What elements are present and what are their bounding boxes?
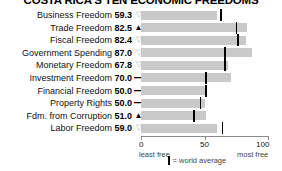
axis-label-0: 0 xyxy=(139,140,143,149)
row-plot-area xyxy=(141,22,269,35)
world-average-marker xyxy=(193,110,195,122)
row-plot-area xyxy=(141,72,269,85)
score-bar xyxy=(141,73,231,82)
row-score-value: 50.0 xyxy=(112,85,132,98)
row-label: Property Rights xyxy=(0,97,112,110)
legend: = world average xyxy=(168,156,226,165)
score-bar xyxy=(141,86,205,95)
score-bar xyxy=(141,99,205,108)
row-label: Fiscal Freedom xyxy=(0,34,112,47)
world-average-marker xyxy=(224,59,226,71)
world-average-marker xyxy=(224,47,226,59)
economic-freedoms-chart: COSTA RICA'S TEN ECONOMIC FREEDOMS Busin… xyxy=(0,0,282,171)
row-score-value: 70.0 xyxy=(112,72,132,85)
chart-row: Property Rights50.0— xyxy=(0,97,282,110)
score-bar xyxy=(141,11,217,20)
row-label: Monetary Freedom xyxy=(0,59,112,72)
world-average-tick-icon xyxy=(168,156,170,165)
row-plot-area xyxy=(141,34,269,47)
legend-label: = world average xyxy=(173,156,227,165)
chart-row: Fiscal Freedom82.4▽ xyxy=(0,34,282,47)
row-plot-area xyxy=(141,9,269,22)
chart-row: Business Freedom59.3▽ xyxy=(0,9,282,22)
row-score-value: 87.0 xyxy=(112,47,132,60)
chart-row: Government Spending87.0▽ xyxy=(0,47,282,60)
chart-row: Monetary Freedom67.8▽ xyxy=(0,59,282,72)
score-bar xyxy=(141,111,206,120)
row-score-value: 67.8 xyxy=(112,59,132,72)
row-score-value: 50.0 xyxy=(112,97,132,110)
world-average-marker xyxy=(236,22,238,34)
row-score-value: 82.5 xyxy=(112,22,132,35)
row-label: Government Spending xyxy=(0,47,112,60)
row-plot-area xyxy=(141,47,269,60)
chart-title: COSTA RICA'S TEN ECONOMIC FREEDOMS xyxy=(0,0,282,5)
world-average-marker xyxy=(205,72,207,84)
axis-label-50: 50 xyxy=(200,140,209,149)
x-axis: 0 50 100 least free most free xyxy=(141,136,269,137)
score-bar xyxy=(141,124,217,133)
row-score-value: 82.4 xyxy=(112,34,132,47)
score-bar xyxy=(141,23,247,32)
chart-row: Labor Freedom59.0▽ xyxy=(0,122,282,135)
row-label: Business Freedom xyxy=(0,9,112,22)
row-label: Fdm. from Corruption xyxy=(0,110,112,123)
world-average-marker xyxy=(237,34,239,46)
world-average-marker xyxy=(205,85,207,97)
chart-row: Financial Freedom50.0— xyxy=(0,85,282,98)
row-plot-area xyxy=(141,85,269,98)
score-bar xyxy=(141,61,228,70)
row-label: Labor Freedom xyxy=(0,122,112,135)
chart-row: Fdm. from Corruption51.0▲ xyxy=(0,110,282,123)
world-average-marker xyxy=(200,97,202,109)
row-score-value: 59.3 xyxy=(112,9,132,22)
chart-rows: Business Freedom59.3▽Trade Freedom82.5▲F… xyxy=(0,9,282,135)
axis-label-100: 100 xyxy=(256,140,269,149)
chart-row: Trade Freedom82.5▲ xyxy=(0,22,282,35)
score-bar xyxy=(141,48,252,57)
row-score-value: 51.0 xyxy=(112,110,132,123)
score-bar xyxy=(141,36,246,45)
axis-caption-most-free: most free xyxy=(237,150,268,159)
axis-caption-least-free: least free xyxy=(139,150,170,159)
row-score-value: 59.0 xyxy=(112,122,132,135)
row-label: Trade Freedom xyxy=(0,22,112,35)
row-label: Investment Freedom xyxy=(0,72,112,85)
row-plot-area xyxy=(141,97,269,110)
row-plot-area xyxy=(141,122,269,135)
chart-row: Investment Freedom70.0— xyxy=(0,72,282,85)
row-label: Financial Freedom xyxy=(0,85,112,98)
row-plot-area xyxy=(141,59,269,72)
world-average-marker xyxy=(222,122,224,134)
world-average-marker xyxy=(220,9,222,21)
row-plot-area xyxy=(141,110,269,123)
